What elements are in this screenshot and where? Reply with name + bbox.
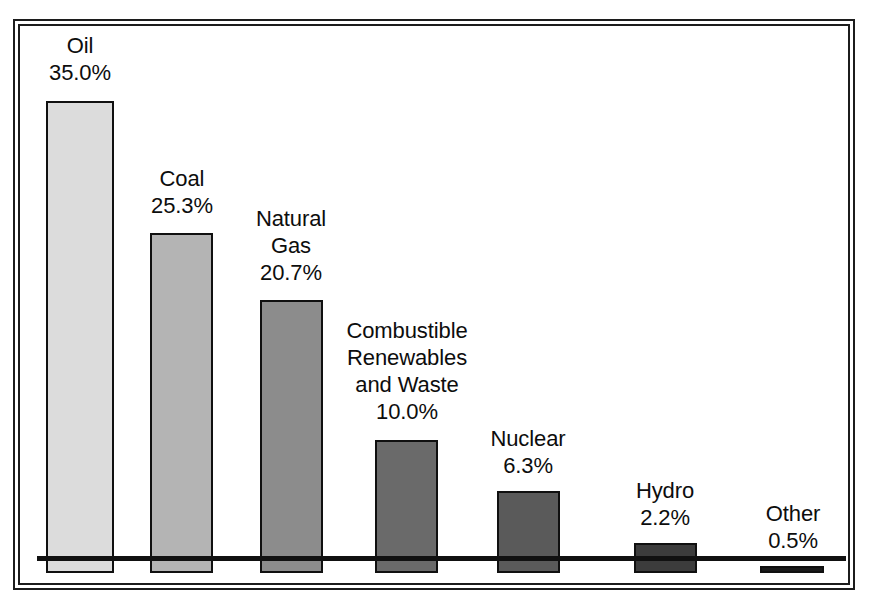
bar-label-nuclear: Nuclear6.3%	[470, 425, 586, 479]
bar-label-natural-gas: Natural Gas20.7%	[233, 205, 349, 286]
bar-value-label: 20.7%	[233, 259, 349, 286]
bar-value-label: 10.0%	[319, 398, 495, 425]
bar-category-name: Nuclear	[470, 425, 586, 452]
x-axis-baseline	[37, 556, 846, 561]
bar-value-label: 35.0%	[22, 59, 138, 86]
bar-category-name: Hydro	[607, 477, 723, 504]
bar-category-name: Natural Gas	[233, 205, 349, 259]
bar-category-name: Combustible Renewables and Waste	[319, 317, 495, 398]
chart-outer-frame: Oil35.0%Coal25.3%Natural Gas20.7%Combust…	[13, 19, 855, 590]
bar-label-other: Other0.5%	[735, 500, 851, 554]
bar-value-label: 2.2%	[607, 504, 723, 531]
bar-other	[760, 566, 824, 573]
bar-oil	[46, 101, 114, 573]
bar-value-label: 0.5%	[735, 527, 851, 554]
chart-inner-frame: Oil35.0%Coal25.3%Natural Gas20.7%Combust…	[18, 24, 850, 585]
bar-combustible-renewables-and-waste	[375, 440, 438, 573]
plot-area: Oil35.0%Coal25.3%Natural Gas20.7%Combust…	[20, 26, 848, 583]
bar-coal	[150, 233, 213, 573]
bar-category-name: Oil	[22, 32, 138, 59]
bar-value-label: 6.3%	[470, 452, 586, 479]
bar-category-name: Other	[735, 500, 851, 527]
bar-value-label: 25.3%	[124, 192, 240, 219]
bar-label-coal: Coal25.3%	[124, 165, 240, 219]
bar-natural-gas	[260, 300, 323, 573]
bar-label-hydro: Hydro2.2%	[607, 477, 723, 531]
bar-label-combustible-renewables-and-waste: Combustible Renewables and Waste10.0%	[319, 317, 495, 425]
bar-label-oil: Oil35.0%	[22, 32, 138, 86]
bar-category-name: Coal	[124, 165, 240, 192]
